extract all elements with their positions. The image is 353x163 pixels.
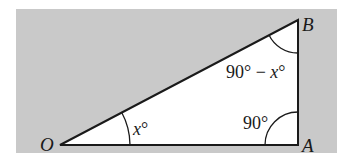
vertex-label-o: O bbox=[40, 134, 54, 155]
angle-label-b: 90° − x° bbox=[226, 62, 286, 82]
vertex-label-b: B bbox=[302, 14, 314, 35]
angle-label-a: 90° bbox=[243, 113, 268, 133]
angle-label-o: x° bbox=[132, 119, 148, 139]
diagram-canvas: O A B x° 90° 90° − x° bbox=[0, 0, 353, 163]
vertex-label-a: A bbox=[300, 135, 314, 156]
